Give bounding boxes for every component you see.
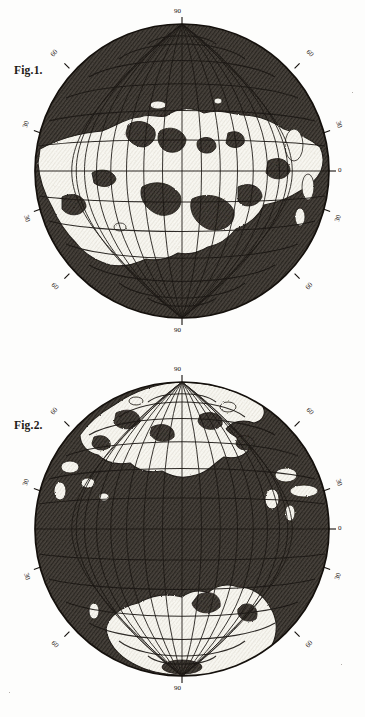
engraved-plate: Fig.1.	[0, 0, 365, 717]
figure-2-globe-svg	[32, 379, 332, 679]
tick-figure-1-equator-east-0: 0	[338, 167, 342, 174]
paper-speck	[341, 664, 342, 665]
tick-figure-2-south-east-30: 30	[334, 572, 343, 581]
tick-figure-2-north-east-30: 30	[334, 478, 343, 487]
tick-figure-1-south-west-30: 30	[22, 214, 31, 223]
tick-figure-1-north-pole: 90	[174, 8, 181, 15]
tick-figure-2-north-pole: 90	[174, 366, 181, 373]
paper-speck	[9, 692, 10, 693]
tick-figure-2-equator-east-0: 0	[338, 525, 342, 532]
tick-figure-2-south-pole: 90	[174, 685, 181, 692]
paper-speck	[352, 92, 353, 93]
figure-2-globe: 90 60 60 30 30 0 30 30 60 60 90	[32, 379, 332, 679]
tick-figure-1-south-pole: 90	[174, 327, 181, 334]
figure-1: Fig.1.	[0, 0, 365, 360]
figure-2: Fig.2.	[0, 357, 365, 717]
tick-figure-2-south-west-30: 30	[22, 572, 31, 581]
tick-figure-1-south-east-30: 30	[334, 214, 343, 223]
figure-1-globe-svg	[32, 21, 332, 321]
tick-figure-1-north-east-30: 30	[334, 120, 343, 129]
tick-figure-2-north-west-30: 30	[22, 478, 31, 487]
figure-1-globe: 90 60 60 30 30 0 30 30 60 60 90	[32, 21, 332, 321]
tick-figure-1-north-west-30: 30	[22, 120, 31, 129]
